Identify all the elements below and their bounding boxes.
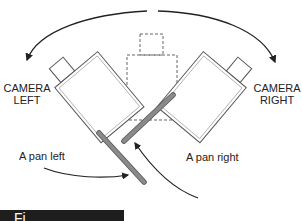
camera-right — [157, 38, 258, 143]
camera-pan-diagram: CAMERA LEFT CAMERA RIGHT A pan left A pa… — [0, 0, 302, 221]
right-arc-arrow — [158, 11, 275, 62]
camera-left-label-line1: CAMERA — [2, 82, 52, 94]
camera-left-label: CAMERA LEFT — [2, 82, 52, 106]
pan-right-label: A pan right — [186, 151, 239, 163]
camera-right-label: CAMERA RIGHT — [252, 82, 302, 106]
camera-left-label-line2: LEFT — [2, 94, 52, 106]
figure-caption-bar: Fi — [0, 210, 124, 221]
camera-left — [43, 38, 144, 143]
pan-left-arrow — [44, 168, 128, 177]
camera-right-label-line2: RIGHT — [252, 94, 302, 106]
camera-right-label-line1: CAMERA — [252, 82, 302, 94]
left-arc-arrow — [27, 11, 147, 60]
pan-left-label: A pan left — [19, 150, 65, 162]
figure-caption-text: Fi — [14, 211, 26, 221]
